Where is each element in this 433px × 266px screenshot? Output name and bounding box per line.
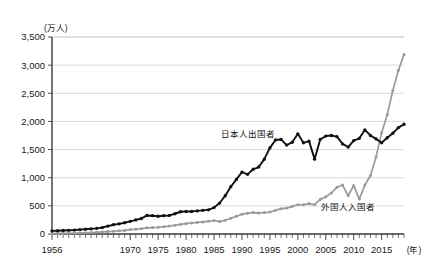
data-point — [95, 231, 98, 234]
data-point — [240, 213, 243, 216]
data-point — [196, 209, 199, 212]
data-point — [397, 126, 400, 129]
data-point — [84, 228, 87, 231]
data-point — [201, 209, 204, 212]
data-point — [341, 184, 344, 187]
data-point — [151, 226, 154, 229]
data-point — [190, 222, 193, 225]
data-point — [397, 69, 400, 72]
y-axis-tick-label: 1,500 — [21, 144, 45, 155]
data-point — [375, 155, 378, 158]
data-point — [330, 134, 333, 137]
data-point — [106, 230, 109, 233]
data-point — [213, 219, 216, 222]
data-point — [386, 136, 389, 139]
data-point — [173, 212, 176, 215]
data-point — [218, 201, 221, 204]
x-axis-tick-label: 2015 — [371, 244, 392, 255]
data-point — [341, 142, 344, 145]
data-point — [84, 231, 87, 234]
data-point — [386, 113, 389, 116]
data-point — [95, 227, 98, 230]
data-point — [212, 206, 215, 209]
data-point — [324, 134, 327, 137]
x-axis-unit-label: (年) — [407, 245, 422, 255]
data-point — [363, 184, 366, 187]
data-point — [296, 203, 299, 206]
data-point — [358, 198, 361, 201]
gridlines-group — [52, 37, 404, 206]
data-point — [78, 231, 81, 234]
data-point — [291, 141, 294, 144]
data-point — [151, 214, 154, 217]
y-axis-tick-label: 2,000 — [21, 116, 45, 127]
data-point — [101, 230, 104, 233]
y-axis-ticks-group: 05001,0001,5002,0002,5003,0003,500 — [21, 31, 52, 239]
data-point — [330, 191, 333, 194]
data-point — [184, 210, 187, 213]
data-point — [224, 194, 227, 197]
data-point — [324, 195, 327, 198]
data-point — [179, 223, 182, 226]
data-point — [50, 229, 53, 232]
data-point — [403, 53, 406, 56]
data-point — [251, 168, 254, 171]
data-point — [168, 214, 171, 217]
data-point — [285, 143, 288, 146]
x-axis-tick-label: 2010 — [343, 244, 364, 255]
data-point — [246, 173, 249, 176]
data-point — [67, 232, 70, 235]
data-point — [268, 211, 271, 214]
x-axis-tick-label: 1990 — [231, 244, 252, 255]
x-axis-tick-label: 2000 — [287, 244, 308, 255]
data-point — [313, 203, 316, 206]
x-axis-ticks-group: 1956197019751980198519901995200020052010… — [41, 234, 404, 255]
data-point — [252, 211, 255, 214]
data-point — [308, 202, 311, 205]
data-point — [145, 226, 148, 229]
data-point — [363, 128, 366, 131]
data-point — [335, 186, 338, 189]
chart-container: 05001,0001,5002,0002,5003,0003,500 19561… — [0, 0, 433, 266]
data-point — [207, 208, 210, 211]
data-point — [117, 222, 120, 225]
data-point — [246, 212, 249, 215]
y-axis-tick-label: 500 — [29, 200, 45, 211]
data-point — [162, 225, 165, 228]
data-point — [123, 221, 126, 224]
data-point — [347, 194, 350, 197]
data-point — [89, 227, 92, 230]
data-point — [129, 228, 132, 231]
data-point — [123, 229, 126, 232]
data-point — [67, 229, 70, 232]
data-point — [73, 228, 76, 231]
data-point — [335, 135, 338, 138]
data-point — [235, 178, 238, 181]
data-point — [369, 174, 372, 177]
x-axis-tick-label: 1985 — [203, 244, 224, 255]
data-point — [380, 131, 383, 134]
y-axis-tick-label: 1,000 — [21, 172, 45, 183]
data-point — [62, 232, 65, 235]
y-axis-tick-label: 0 — [40, 228, 45, 239]
data-point — [145, 214, 148, 217]
line-chart: 05001,0001,5002,0002,5003,0003,500 19561… — [0, 0, 433, 266]
data-point — [257, 165, 260, 168]
data-point — [229, 185, 232, 188]
data-point — [112, 223, 115, 226]
data-point — [285, 207, 288, 210]
y-axis-unit-label: (万人) — [44, 23, 68, 33]
data-point — [129, 220, 132, 223]
data-point — [279, 138, 282, 141]
data-point — [307, 139, 310, 142]
data-point — [319, 138, 322, 141]
data-point — [90, 231, 93, 234]
data-point — [134, 228, 137, 231]
data-point — [391, 89, 394, 92]
x-axis-tick-label: 1995 — [259, 244, 280, 255]
data-point — [157, 215, 160, 218]
data-point — [302, 203, 305, 206]
data-point — [134, 218, 137, 221]
data-point — [352, 139, 355, 142]
y-axis-tick-label: 3,000 — [21, 60, 45, 71]
